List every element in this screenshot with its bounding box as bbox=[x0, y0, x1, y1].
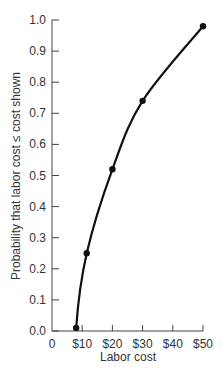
y-axis-title: Probability that labor cost ≤ cost shown bbox=[9, 72, 23, 280]
y-axis: 0.00.10.20.30.40.50.60.70.80.91.0 bbox=[29, 13, 59, 338]
y-tick-label: 0.1 bbox=[29, 293, 46, 307]
y-tick-label: 0.8 bbox=[29, 75, 46, 89]
x-tick-label: 0 bbox=[49, 337, 56, 351]
cumulative-probability-chart: 0.00.10.20.30.40.50.60.70.80.91.0 0$10$2… bbox=[0, 0, 223, 379]
y-tick-label: 0.9 bbox=[29, 44, 46, 58]
x-axis-title: Labor cost bbox=[100, 350, 157, 364]
y-tick-label: 0.5 bbox=[29, 169, 46, 183]
y-tick-label: 0.2 bbox=[29, 262, 46, 276]
y-tick-label: 0.0 bbox=[29, 324, 46, 338]
data-point bbox=[139, 98, 145, 104]
y-tick-label: 0.7 bbox=[29, 106, 46, 120]
data-point bbox=[109, 166, 115, 172]
data-point bbox=[200, 23, 206, 29]
y-tick-label: 0.3 bbox=[29, 231, 46, 245]
probability-curve bbox=[76, 26, 203, 328]
data-point bbox=[84, 250, 90, 256]
y-tick-label: 0.4 bbox=[29, 200, 46, 214]
y-tick-label: 1.0 bbox=[29, 13, 46, 27]
x-tick-label: $10 bbox=[72, 337, 92, 351]
data-point bbox=[73, 325, 79, 331]
data-point-markers bbox=[73, 23, 206, 331]
x-tick-label: $20 bbox=[102, 337, 122, 351]
x-tick-label: $40 bbox=[163, 337, 183, 351]
x-tick-label: $30 bbox=[133, 337, 153, 351]
y-tick-label: 0.6 bbox=[29, 137, 46, 151]
x-tick-label: $50 bbox=[193, 337, 213, 351]
